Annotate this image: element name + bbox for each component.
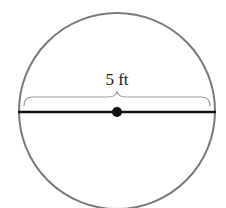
center-point bbox=[112, 107, 122, 117]
diameter-label: 5 ft bbox=[105, 70, 128, 89]
circle-diagram: 5 ft bbox=[0, 0, 226, 208]
diameter-brace bbox=[24, 91, 210, 106]
